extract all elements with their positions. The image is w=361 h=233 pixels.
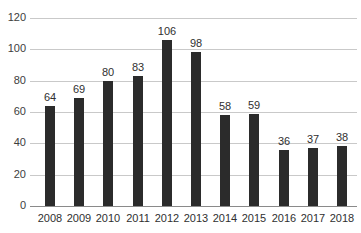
x-axis-tick-label: 2017 bbox=[297, 213, 329, 224]
x-axis-tick-label: 2010 bbox=[92, 213, 124, 224]
bar bbox=[337, 146, 347, 206]
x-axis-tick-label: 2013 bbox=[180, 213, 212, 224]
bar bbox=[74, 98, 84, 206]
bar-value-label: 58 bbox=[209, 101, 241, 112]
bar-value-label: 59 bbox=[238, 100, 270, 111]
bar-value-label: 98 bbox=[180, 38, 212, 49]
y-axis-tick-label: 60 bbox=[0, 106, 26, 117]
x-axis-tick-label: 2016 bbox=[268, 213, 300, 224]
bar bbox=[220, 115, 230, 206]
x-axis-tick-label: 2008 bbox=[34, 213, 66, 224]
x-axis-tick-label: 2014 bbox=[209, 213, 241, 224]
gridline bbox=[30, 18, 357, 19]
bar-value-label: 69 bbox=[63, 84, 95, 95]
bar bbox=[162, 40, 172, 206]
bar-value-label: 64 bbox=[34, 92, 66, 103]
plot-area: 0204060801001206420086920098020108320111… bbox=[0, 0, 361, 233]
bar bbox=[103, 81, 113, 206]
x-axis-tick-label: 2011 bbox=[122, 213, 154, 224]
bar bbox=[279, 150, 289, 206]
y-axis-tick-label: 80 bbox=[0, 75, 26, 86]
y-axis-tick-label: 120 bbox=[0, 12, 26, 23]
x-axis-line bbox=[30, 206, 357, 207]
x-axis-tick-label: 2018 bbox=[326, 213, 358, 224]
y-axis-tick-label: 0 bbox=[0, 200, 26, 211]
bar-value-label: 37 bbox=[297, 134, 329, 145]
x-axis-tick-label: 2012 bbox=[151, 213, 183, 224]
x-axis-tick-label: 2015 bbox=[238, 213, 270, 224]
bar bbox=[249, 114, 259, 206]
bar bbox=[45, 106, 55, 206]
bar bbox=[191, 52, 201, 206]
gridline bbox=[30, 49, 357, 50]
bar-value-label: 38 bbox=[326, 132, 358, 143]
y-axis-tick-label: 40 bbox=[0, 137, 26, 148]
bar bbox=[308, 148, 318, 206]
y-axis-tick-label: 20 bbox=[0, 169, 26, 180]
y-axis-tick-label: 100 bbox=[0, 43, 26, 54]
bar-value-label: 106 bbox=[151, 26, 183, 37]
bar-value-label: 80 bbox=[92, 67, 124, 78]
bar-value-label: 36 bbox=[268, 136, 300, 147]
x-axis-tick-label: 2009 bbox=[63, 213, 95, 224]
bar bbox=[133, 76, 143, 206]
bar-value-label: 83 bbox=[122, 62, 154, 73]
bar-chart: 0204060801001206420086920098020108320111… bbox=[0, 0, 361, 233]
